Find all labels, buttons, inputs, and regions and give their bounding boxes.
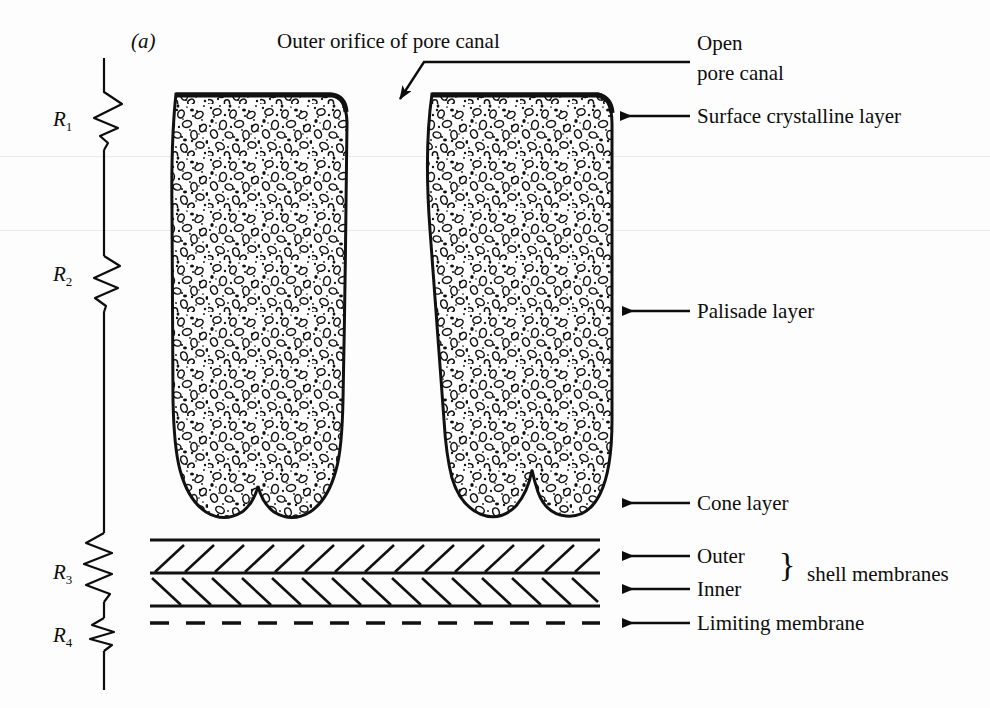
region-label-r1: R1 [53,107,72,135]
scan-artifact-line [0,230,990,231]
panel-letter: (a) [131,29,156,54]
callout-shell-membranes-group: shell membranes [807,562,949,587]
scan-artifact-line [0,156,990,157]
region-label-r3: R3 [53,560,72,588]
region-label-r4: R4 [53,623,72,651]
resistor-symbol-r2 [94,256,120,312]
callout-outer-shell-membrane: Outer [697,544,745,569]
callout-surface-crystalline-layer: Surface crystalline layer [697,104,901,129]
resistor-symbol-r4 [90,618,114,651]
callout-inner-shell-membrane: Inner [697,577,741,602]
callout-palisade-layer: Palisade layer [697,299,814,324]
open-pore-canal-leader [400,62,690,99]
right-palisade-column [420,88,618,528]
region-label-r2-letter: R [53,262,66,286]
figure-title: Outer orifice of pore canal [277,29,500,54]
region-label-r3-letter: R [53,560,66,584]
left-palisade-column [165,88,360,533]
region-label-r2-sub: 2 [66,274,73,289]
shell-membrane-group [150,540,600,623]
callout-limiting-membrane: Limiting membrane [697,611,864,636]
callout-cone-layer: Cone layer [697,491,789,516]
region-label-r4-letter: R [53,623,66,647]
inner-membrane-hatch [152,578,598,605]
region-label-r1-letter: R [53,107,66,131]
figure-page: (a) Outer orifice of pore canal R1 R2 R3… [0,0,990,708]
region-label-r1-sub: 1 [66,119,73,134]
shell-membranes-brace: } [779,546,795,584]
region-label-r2: R2 [53,262,72,290]
callout-open-pore-canal-line2: pore canal [697,61,784,86]
region-label-r3-sub: 3 [66,572,73,587]
resistor-symbol-r1 [94,86,122,150]
region-label-r4-sub: 4 [66,635,73,650]
resistor-ladder-axis [84,58,122,690]
leader-lines [400,62,690,623]
resistor-symbol-r3 [84,533,112,602]
outer-membrane-hatch [155,545,600,572]
callout-open-pore-canal-line1: Open [697,31,743,56]
